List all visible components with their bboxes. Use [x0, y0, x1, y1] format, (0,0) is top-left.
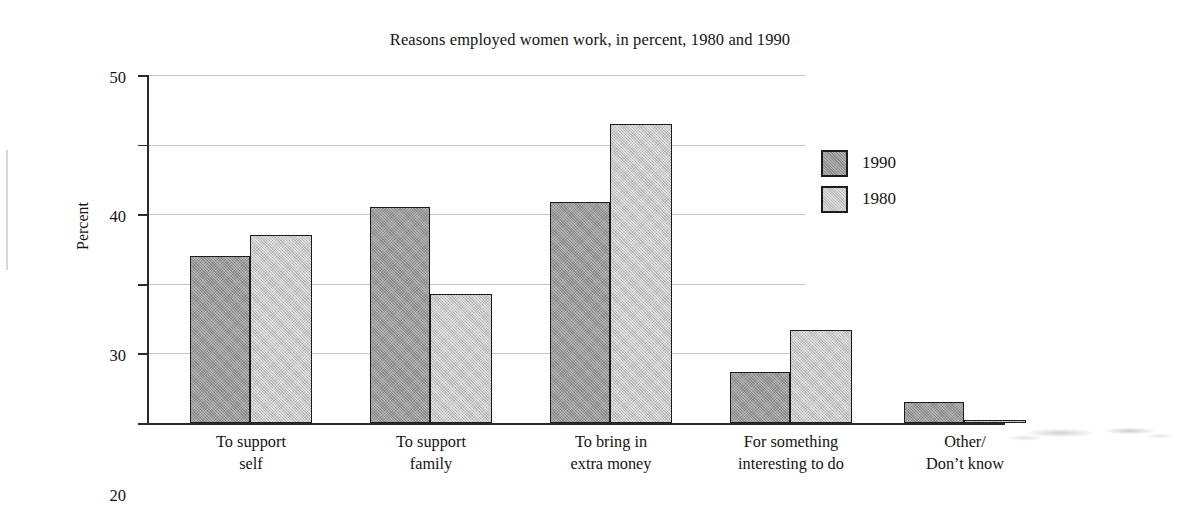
- y-axis-tick-label: 30: [110, 348, 127, 365]
- y-axis-tick-label: 50: [110, 70, 127, 87]
- legend-label: 1990: [862, 153, 896, 173]
- legend: 19901980: [821, 145, 896, 217]
- y-axis-tick-mark: 50: [138, 75, 148, 77]
- bar-1990-0: [190, 256, 250, 423]
- x-axis-label-line1: To support: [216, 432, 286, 451]
- chart-title: Reasons employed women work, in percent,…: [0, 30, 1180, 50]
- x-axis-label-line1: To support: [396, 432, 466, 451]
- y-axis-tick-mark: 10: [138, 353, 148, 355]
- bar-1980-0: [250, 235, 312, 423]
- bar-1990-4: [904, 402, 964, 423]
- light-gray-swatch: [821, 186, 848, 213]
- gridline: [147, 214, 805, 215]
- bar-1990-3: [730, 372, 790, 423]
- x-axis-label-3: For somethinginteresting to do: [691, 431, 891, 474]
- x-axis-label-line1: Other/: [944, 432, 986, 451]
- legend-entry-1990: 1990: [821, 145, 896, 181]
- bar-1980-1: [430, 294, 492, 423]
- y-axis-tick-mark: 40: [138, 145, 148, 147]
- y-axis-tick-label: 20: [110, 487, 127, 504]
- legend-entry-1980: 1980: [821, 181, 896, 217]
- x-axis-label-line1: To bring in: [575, 432, 647, 451]
- x-axis-label-1: To supportfamily: [331, 431, 531, 474]
- bar-1980-4: [964, 420, 1026, 423]
- dark-gray-swatch: [821, 150, 848, 177]
- y-axis-line: [147, 75, 149, 425]
- bar-1990-2: [550, 202, 610, 423]
- y-axis-tick-mark: 30: [138, 214, 148, 216]
- x-axis-label-line2: interesting to do: [691, 453, 891, 475]
- y-axis-tick-mark: 0: [138, 423, 148, 425]
- x-axis-label-line2: family: [331, 453, 531, 475]
- legend-label: 1980: [862, 189, 896, 209]
- y-axis-title: Percent: [74, 166, 92, 286]
- x-axis-label-line1: For something: [744, 432, 839, 451]
- x-axis-label-line2: self: [151, 453, 351, 475]
- x-axis-line: [147, 423, 1005, 425]
- scan-artifact-smudge: [1000, 424, 1185, 450]
- y-axis-tick-mark: 20: [138, 284, 148, 286]
- gridline: [147, 75, 805, 76]
- x-axis-label-line2: extra money: [511, 453, 711, 475]
- x-axis-label-2: To bring inextra money: [511, 431, 711, 474]
- scan-artifact-page-edge: [6, 150, 8, 270]
- gridline: [147, 145, 805, 146]
- bar-chart-figure: Reasons employed women work, in percent,…: [0, 0, 1200, 507]
- bar-1990-1: [370, 207, 430, 423]
- plot-area: 01020304050 To supportselfTo supportfami…: [147, 72, 1005, 425]
- y-axis-tick-label: 40: [110, 209, 127, 226]
- x-axis-label-0: To supportself: [151, 431, 351, 474]
- bar-1980-3: [790, 330, 852, 423]
- bar-1980-2: [610, 124, 672, 423]
- x-axis-label-line2: Don’t know: [865, 453, 1065, 475]
